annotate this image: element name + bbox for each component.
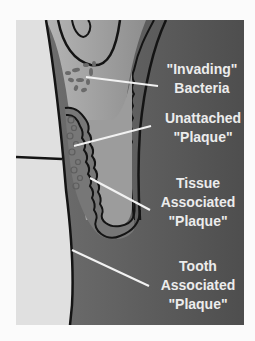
diagram-frame: "Invading" Bacteria Unattached "Plaque" … (16, 20, 244, 325)
label-invading-bacteria: "Invading" Bacteria (160, 60, 244, 98)
label-unattached-plaque: Unattached "Plaque" (148, 109, 244, 147)
label-tissue-associated-plaque: Tissue Associated "Plaque" (150, 174, 244, 231)
label-tooth-associated-plaque: Tooth Associated "Plaque" (150, 257, 244, 314)
